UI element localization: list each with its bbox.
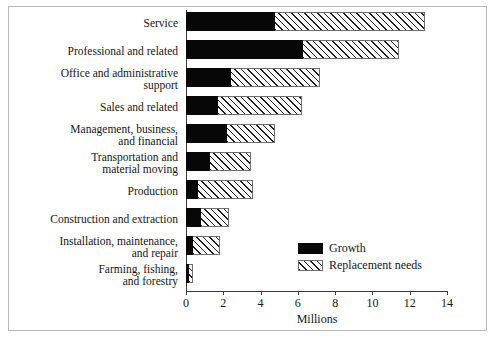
category-label: Farming, fishing, and forestry <box>10 264 178 287</box>
bar-segment-replacement-needs <box>198 180 253 199</box>
x-axis-tick-label: 2 <box>208 296 238 310</box>
x-axis-tick <box>447 291 448 295</box>
bar-segment-growth <box>186 152 210 171</box>
bar-row <box>186 12 425 31</box>
bar-row <box>186 208 229 227</box>
bar-segment-replacement-needs <box>227 124 275 143</box>
category-label: Office and administrative support <box>10 68 178 91</box>
legend-item-replacement-needs: Replacement needs <box>298 257 422 274</box>
x-axis-tick-label: 12 <box>395 296 425 310</box>
category-label: Transportation and material moving <box>10 152 178 175</box>
bar-segment-replacement-needs <box>193 236 219 255</box>
x-axis-line <box>186 291 448 292</box>
bar-row <box>186 152 251 171</box>
x-axis-tick-label: 0 <box>171 296 201 310</box>
legend-label-growth: Growth <box>329 240 366 257</box>
x-axis-tick <box>298 291 299 295</box>
bar-segment-replacement-needs <box>275 12 424 31</box>
bar-segment-replacement-needs <box>231 68 320 87</box>
solid-black-swatch <box>298 243 323 254</box>
bar-segment-replacement-needs <box>210 152 251 171</box>
bar-segment-growth <box>186 96 218 115</box>
bar-row <box>186 180 253 199</box>
bar-segment-replacement-needs <box>189 264 193 283</box>
x-axis-tick <box>186 291 187 295</box>
category-label: Installation, maintenance, and repair <box>10 236 178 259</box>
bar-row <box>186 236 220 255</box>
bar-row <box>186 264 193 283</box>
bar-segment-replacement-needs <box>303 40 398 59</box>
bar-segment-replacement-needs <box>201 208 229 227</box>
chart-legend: Growth Replacement needs <box>298 240 422 274</box>
legend-label-replacement-needs: Replacement needs <box>329 257 422 274</box>
bar-segment-growth <box>186 68 231 87</box>
legend-item-growth: Growth <box>298 240 422 257</box>
bar-segment-growth <box>186 236 193 255</box>
x-axis-tick <box>335 291 336 295</box>
x-axis-tick-label: 4 <box>246 296 276 310</box>
bar-segment-growth <box>186 124 227 143</box>
x-axis-tick <box>261 291 262 295</box>
bar-row <box>186 40 399 59</box>
bar-segment-growth <box>186 40 303 59</box>
x-axis-tick-label: 10 <box>357 296 387 310</box>
bar-row <box>186 96 302 115</box>
x-axis-tick-label: 6 <box>283 296 313 310</box>
x-axis-tick <box>410 291 411 295</box>
x-axis-title: Millions <box>186 312 448 327</box>
x-axis-tick <box>223 291 224 295</box>
bar-segment-growth <box>186 208 201 227</box>
bar-segment-growth <box>186 180 198 199</box>
category-label: Service <box>10 18 178 30</box>
category-label: Management, business, and financial <box>10 124 178 147</box>
category-label: Professional and related <box>10 46 178 58</box>
bar-row <box>186 68 320 87</box>
hatched-swatch <box>298 260 323 271</box>
category-label: Construction and extraction <box>10 214 178 226</box>
bar-segment-replacement-needs <box>218 96 302 115</box>
x-axis-tick-label: 8 <box>320 296 350 310</box>
bar-chart: ServiceProfessional and relatedOffice an… <box>0 0 499 344</box>
bar-row <box>186 124 275 143</box>
x-axis-tick <box>372 291 373 295</box>
category-label: Production <box>10 186 178 198</box>
category-label: Sales and related <box>10 102 178 114</box>
x-axis-tick-label: 14 <box>432 296 462 310</box>
bar-segment-growth <box>186 12 275 31</box>
